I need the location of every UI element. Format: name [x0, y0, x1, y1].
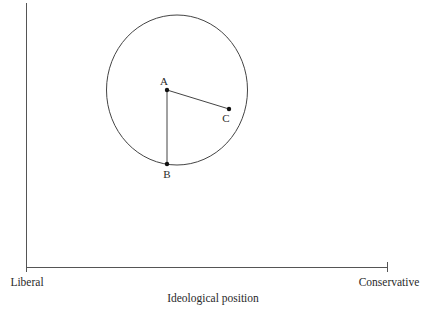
indifference-circle — [107, 15, 248, 165]
point-b — [165, 162, 169, 166]
point-c-label: C — [222, 112, 229, 124]
ideological-space-diagram: A B C Liberal Conservative Ideological p… — [0, 0, 428, 322]
x-axis-title: Ideological position — [167, 292, 259, 305]
point-c — [227, 107, 231, 111]
point-b-label: B — [163, 168, 170, 180]
point-a — [165, 88, 169, 92]
liberal-label: Liberal — [10, 276, 43, 288]
segment-a-c — [167, 90, 229, 109]
point-a-label: A — [160, 75, 168, 87]
conservative-label: Conservative — [359, 276, 420, 288]
